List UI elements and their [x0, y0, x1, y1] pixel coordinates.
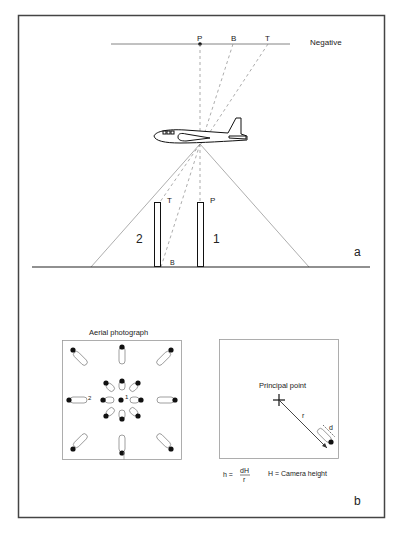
airplane-icon [154, 118, 247, 143]
formula-denominator: r [243, 476, 246, 483]
object-2-column [155, 203, 161, 267]
d-label: d [329, 424, 333, 431]
principal-point-label: Principal point [259, 381, 307, 390]
panel-b: Aerial photograph [63, 328, 362, 508]
ground-rays [160, 144, 200, 267]
object-1-top-label: P [210, 196, 215, 205]
object-2-top-label: T [167, 196, 172, 205]
negative-label-t: T [265, 34, 270, 43]
panel-a-letter: a [354, 245, 361, 259]
aerial-photograph-title: Aerial photograph [89, 328, 148, 337]
negative-label-b: B [231, 34, 236, 43]
formula-note: H = Camera height [268, 470, 327, 478]
panel-b-letter: b [354, 494, 361, 508]
formula-lhs: h = [223, 471, 233, 478]
object-2-base-label: B [170, 259, 175, 266]
object-2-label: 2 [136, 232, 143, 246]
panel-a: P B T Negative [32, 34, 370, 267]
formula-numerator: dH [240, 467, 249, 474]
displaced-object-top [328, 439, 333, 444]
photo-object-1 [118, 397, 123, 402]
negative-label-p: P [197, 34, 202, 43]
relief-displacement-figure: P B T Negative [0, 0, 400, 535]
object-1-column [198, 203, 204, 267]
object-1-label: 1 [213, 232, 220, 246]
negative-label: Negative [310, 38, 342, 47]
